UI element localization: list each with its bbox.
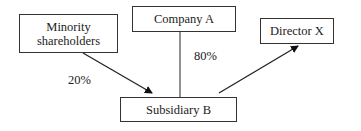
node-minority-shareholders: Minority shareholders: [19, 14, 118, 53]
node-label: shareholders: [37, 34, 100, 48]
node-label: Minority: [46, 20, 90, 34]
node-label: Subsidiary B: [146, 103, 211, 117]
node-subsidiary-b: Subsidiary B: [120, 97, 237, 122]
node-director-x: Director X: [260, 18, 334, 44]
node-label: Company A: [154, 12, 214, 26]
edge-subsidiary-to-director: [219, 46, 298, 93]
edge-label-20: 20%: [68, 73, 91, 88]
node-company-a: Company A: [132, 6, 236, 32]
edge-minority-to-subsidiary: [83, 53, 152, 93]
edge-label-80: 80%: [194, 49, 217, 64]
node-label: Director X: [270, 24, 324, 38]
